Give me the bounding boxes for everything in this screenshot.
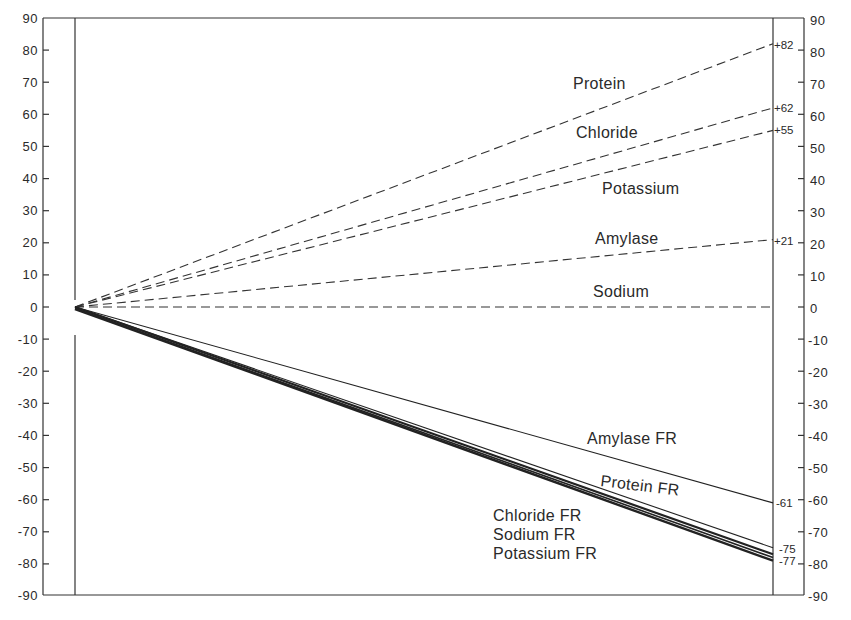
left-tick-minus-30: -30	[18, 396, 38, 411]
end-value-labels: +82 +62 +55 +21 -61 -75 -77	[774, 39, 796, 567]
left-tick-minus-90: -90	[18, 588, 38, 603]
right-tick-30: 30	[810, 205, 825, 220]
label-amylase: Amylase	[595, 230, 658, 247]
right-tick-minus-50: -50	[808, 461, 828, 476]
left-tick-minus-40: -40	[18, 428, 38, 443]
left-tick-30: 30	[23, 203, 38, 218]
right-tick-0: 0	[810, 301, 818, 316]
right-tick-90: 90	[810, 13, 825, 28]
left-tick-minus-50: -50	[18, 460, 38, 475]
label-sodium: Sodium	[593, 283, 649, 300]
right-tick-minus-70: -70	[808, 525, 828, 540]
left-tick-20: 20	[23, 235, 38, 250]
right-tick-minus-10: -10	[808, 333, 828, 348]
right-tick-60: 60	[810, 109, 825, 124]
left-tick-50: 50	[23, 139, 38, 154]
right-tick-minus-20: -20	[808, 365, 828, 380]
left-tick-minus-60: -60	[18, 492, 38, 507]
left-tick-minus-10: -10	[18, 332, 38, 347]
left-tick-60: 60	[23, 107, 38, 122]
dashed-series	[75, 44, 773, 307]
end-value-amylase-fr: -61	[776, 497, 793, 509]
series-line-amylase	[75, 240, 773, 307]
left-tick-80: 80	[23, 43, 38, 58]
left-tick-70: 70	[23, 75, 38, 90]
left-tick-10: 10	[23, 267, 38, 282]
left-tick-90: 90	[23, 11, 38, 26]
right-tick-minus-60: -60	[808, 493, 828, 508]
left-tick-40: 40	[23, 171, 38, 186]
chart-canvas: 90 80 70 60 50 40 30 20 10 0 -10 -20 -30…	[0, 0, 851, 620]
right-tick-20: 20	[810, 237, 825, 252]
right-axis-ticks	[798, 50, 804, 564]
label-chloride-fr: Chloride FR	[493, 507, 582, 524]
end-value-protein-fr: -75	[779, 543, 796, 555]
right-tick-40: 40	[810, 173, 825, 188]
series-line-amylase-fr	[75, 307, 773, 503]
label-potassium: Potassium	[602, 180, 679, 197]
right-tick-minus-30: -30	[808, 397, 828, 412]
end-value-potassium: +55	[774, 124, 794, 136]
right-tick-70: 70	[810, 77, 825, 92]
end-value-amylase: +21	[774, 235, 794, 247]
left-axis-labels: 90 80 70 60 50 40 30 20 10 0 -10 -20 -30…	[18, 11, 38, 603]
series-line-protein	[75, 44, 773, 307]
label-chloride: Chloride	[576, 124, 638, 141]
right-tick-minus-90: -90	[808, 589, 828, 604]
label-sodium-fr: Sodium FR	[493, 526, 576, 543]
label-amylase-fr: Amylase FR	[587, 430, 677, 447]
right-tick-80: 80	[810, 45, 825, 60]
right-axis-labels: 90 80 70 60 50 40 30 20 10 0 -10 -20 -30…	[808, 13, 828, 604]
series-line-potassium	[75, 130, 773, 307]
right-tick-minus-40: -40	[808, 429, 828, 444]
end-value-protein: +82	[774, 39, 794, 51]
left-tick-minus-80: -80	[18, 556, 38, 571]
right-tick-minus-80: -80	[808, 557, 828, 572]
label-protein: Protein	[573, 75, 626, 92]
end-value-chloride: +62	[774, 102, 794, 114]
left-tick-0: 0	[30, 300, 38, 315]
end-value-chloride-fr: -77	[779, 555, 796, 567]
label-potassium-fr: Potassium FR	[493, 545, 597, 562]
series-line-chloride	[75, 108, 773, 307]
left-tick-minus-70: -70	[18, 524, 38, 539]
left-axis-ticks	[43, 50, 49, 564]
plot-frame	[43, 18, 804, 595]
right-tick-50: 50	[810, 141, 825, 156]
label-protein-fr: Protein FR	[600, 472, 681, 499]
right-tick-10: 10	[810, 269, 825, 284]
left-tick-minus-20: -20	[18, 364, 38, 379]
